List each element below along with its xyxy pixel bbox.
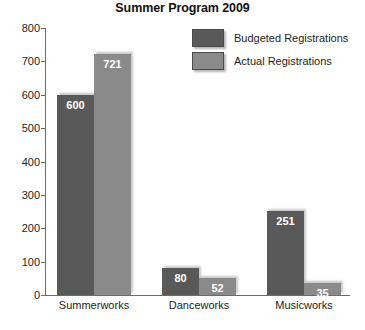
bar-value-label: 52 [199,282,236,294]
x-axis-category-label: Musicworks [249,299,359,311]
y-axis-tick-label: 100 [22,256,40,268]
y-axis-tick-mark [41,162,45,163]
bar: 721 [94,54,131,295]
y-axis-tick-label: 400 [22,156,40,168]
y-axis-tick-mark [41,61,45,62]
bar-value-label: 251 [267,215,304,227]
y-axis-tick-label: 700 [22,55,40,67]
y-axis-tick-mark [41,195,45,196]
y-axis-tick-label: 300 [22,189,40,201]
bar: 600 [57,95,94,295]
y-axis-tick-mark [41,95,45,96]
bar: 35 [304,283,341,295]
y-axis-tick-label: 600 [22,89,40,101]
bar: 52 [199,278,236,295]
y-axis-tick-label: 800 [22,22,40,34]
x-axis-category-label: Summerworks [39,299,149,311]
bar-value-label: 721 [94,58,131,70]
plot-area: 0100200300400500600700800 60072180522513… [45,28,350,296]
y-axis-line [45,28,46,296]
bar-value-label: 80 [162,272,199,284]
bar-value-label: 35 [304,287,341,299]
y-axis-tick-label: 200 [22,222,40,234]
bar-value-label: 600 [57,99,94,111]
chart-title: Summer Program 2009 [0,1,365,15]
y-axis-tick-mark [41,128,45,129]
bar: 80 [162,268,199,295]
x-axis-category-label: Danceworks [144,299,254,311]
y-axis-tick-mark [41,295,45,296]
bar-chart: Summer Program 2009 Budgeted Registratio… [0,0,365,330]
y-axis-tick-mark [41,28,45,29]
y-axis-tick-mark [41,228,45,229]
y-axis-tick-label: 500 [22,122,40,134]
bar: 251 [267,211,304,295]
y-axis-tick-mark [41,262,45,263]
